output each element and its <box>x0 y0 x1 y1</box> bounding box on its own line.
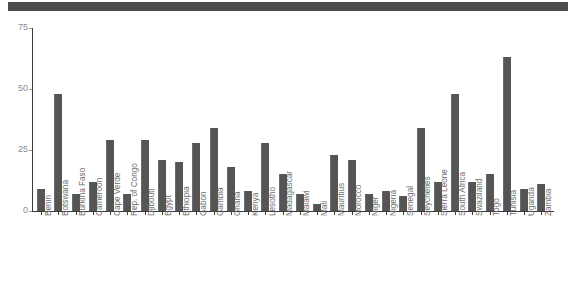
chart-figure: 0255075 BeninBotswanaBurkina FasoCameroo… <box>0 0 574 296</box>
x-tick-label: Egypt <box>165 195 173 216</box>
x-tick-label: Cameroon <box>96 178 104 216</box>
x-tick-label: Gambia <box>217 187 225 216</box>
y-tick-label: 50 <box>6 84 28 93</box>
x-tick-mark <box>283 212 284 215</box>
x-tick-label: Zambia <box>545 189 553 216</box>
y-tick-label: 0 <box>6 206 28 215</box>
x-tick-mark <box>265 212 266 215</box>
x-tick-label: Gabon <box>200 191 208 216</box>
x-tick-label: Uganda <box>528 187 536 216</box>
x-tick-mark <box>421 212 422 215</box>
x-tick-label: Senegal <box>407 186 415 216</box>
x-tick-label: Botswana <box>62 180 70 216</box>
x-tick-label: Tunisia <box>510 190 518 216</box>
x-tick-label: Cape Verde <box>114 173 122 216</box>
x-tick-mark <box>196 212 197 215</box>
x-tick-mark <box>334 212 335 215</box>
x-tick-mark <box>145 212 146 215</box>
x-tick-label: Ghana <box>234 191 242 216</box>
x-tick-mark <box>507 212 508 215</box>
y-axis-tick-labels: 0255075 <box>0 0 28 296</box>
x-tick-mark <box>127 212 128 215</box>
x-tick-mark <box>179 212 180 215</box>
x-tick-mark <box>231 212 232 215</box>
x-tick-label: Morocco <box>355 185 363 216</box>
y-tick-mark <box>29 89 32 90</box>
x-tick-mark <box>472 212 473 215</box>
bar <box>503 57 511 211</box>
x-tick-mark <box>403 212 404 215</box>
x-tick-mark <box>76 212 77 215</box>
y-axis-line <box>32 28 33 212</box>
y-tick-mark <box>29 211 32 212</box>
x-tick-mark <box>214 212 215 215</box>
x-tick-mark <box>386 212 387 215</box>
x-tick-mark <box>490 212 491 215</box>
x-tick-mark <box>93 212 94 215</box>
x-tick-mark <box>352 212 353 215</box>
x-tick-label: Djibouti <box>148 189 156 216</box>
x-tick-label: Seychelles <box>424 176 432 216</box>
bar-chart-plot-area: 0255075 BeninBotswanaBurkina FasoCameroo… <box>0 0 574 296</box>
x-tick-mark <box>317 212 318 215</box>
x-tick-label: Madagascar <box>286 171 294 216</box>
x-tick-label: Mauritius <box>338 183 346 216</box>
x-tick-label: Mali <box>321 201 329 216</box>
x-tick-label: Sierra Leone <box>441 169 449 216</box>
x-tick-label: Kenya <box>252 193 260 216</box>
x-tick-mark <box>541 212 542 215</box>
x-tick-label: South Africa <box>459 172 467 216</box>
x-tick-label: Swaziland <box>476 179 484 216</box>
y-tick-mark <box>29 150 32 151</box>
x-tick-mark <box>369 212 370 215</box>
x-tick-mark <box>110 212 111 215</box>
x-tick-mark <box>58 212 59 215</box>
x-tick-label: Burkina Faso <box>79 168 87 216</box>
x-tick-label: Togo <box>493 198 501 216</box>
x-tick-mark <box>300 212 301 215</box>
x-tick-label: Ethiopia <box>183 186 191 216</box>
x-tick-mark <box>455 212 456 215</box>
y-tick-label: 75 <box>6 23 28 32</box>
x-tick-mark <box>524 212 525 215</box>
x-tick-label: Nigeria <box>390 190 398 216</box>
x-tick-mark <box>41 212 42 215</box>
x-tick-label: Niger <box>372 196 380 216</box>
x-tick-label: Lesotho <box>269 187 277 216</box>
x-tick-mark <box>438 212 439 215</box>
y-tick-label: 25 <box>6 145 28 154</box>
x-tick-label: Benin <box>45 195 53 216</box>
x-tick-mark <box>162 212 163 215</box>
x-tick-mark <box>248 212 249 215</box>
x-tick-label: Malawi <box>303 191 311 216</box>
x-tick-label: Rep. of Congo <box>131 163 139 216</box>
y-tick-mark <box>29 28 32 29</box>
